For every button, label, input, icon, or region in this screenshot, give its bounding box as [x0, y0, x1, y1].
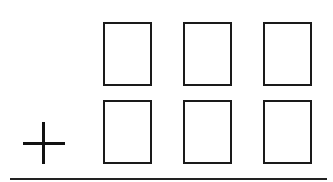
operator-label: + — [0, 0, 1, 1]
addend2-hundreds-box[interactable] — [103, 100, 152, 164]
addend1-tens-box[interactable] — [183, 22, 232, 86]
plus-icon-vertical-stroke — [42, 122, 45, 164]
addend2-ones-box[interactable] — [263, 100, 312, 164]
addend1-hundreds-box[interactable] — [103, 22, 152, 86]
sum-divider-line — [10, 178, 327, 180]
addend2-tens-box[interactable] — [183, 100, 232, 164]
addend1-ones-box[interactable] — [263, 22, 312, 86]
